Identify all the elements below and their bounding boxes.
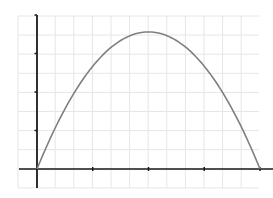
axes (19, 15, 273, 188)
axis-ticks (35, 15, 261, 171)
parabola-chart (0, 0, 273, 198)
grid-lines (18, 16, 259, 188)
